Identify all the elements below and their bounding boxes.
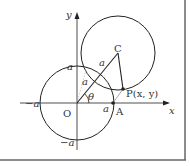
origin-label: O bbox=[63, 108, 71, 119]
center-c-label: C bbox=[114, 43, 122, 54]
tick-neg-x: −a bbox=[25, 98, 39, 109]
segment-label-upper: a bbox=[99, 57, 105, 68]
y-axis-label: y bbox=[65, 9, 72, 20]
point-a-label: A bbox=[115, 106, 124, 117]
tick-neg-y: −a bbox=[60, 137, 74, 148]
point-p-label: P(x, y) bbox=[126, 88, 158, 99]
point-a-dot bbox=[111, 101, 115, 105]
y-axis-arrow-icon bbox=[75, 12, 80, 19]
x-axis-label: x bbox=[169, 105, 175, 116]
segment-label-lower: a bbox=[82, 76, 88, 87]
segment-cp bbox=[118, 53, 123, 89]
tick-pos-y: a bbox=[67, 61, 73, 72]
point-p-dot bbox=[121, 87, 125, 91]
locus-arc bbox=[113, 89, 123, 103]
tick-pos-x: a bbox=[103, 103, 109, 114]
angle-theta-label: θ bbox=[88, 91, 94, 102]
diagram-canvas: y x O C A P(x, y) a −a a −a a a θ bbox=[0, 0, 190, 166]
